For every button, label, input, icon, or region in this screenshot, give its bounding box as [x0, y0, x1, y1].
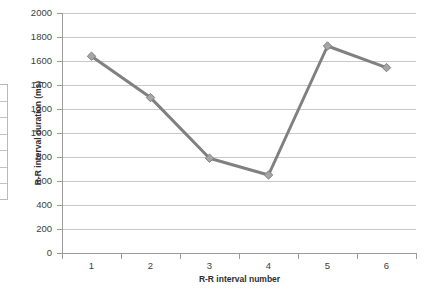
series-line	[92, 46, 387, 175]
data-series-layer	[0, 0, 446, 292]
x-axis-title: R-R interval number	[62, 274, 417, 284]
data-point-marker	[382, 63, 390, 71]
line-chart: 0200400600800100012001400160018002000 12…	[0, 0, 446, 292]
y-axis-title: R-R interval duration (ms)	[33, 33, 43, 233]
series-markers	[87, 42, 390, 179]
